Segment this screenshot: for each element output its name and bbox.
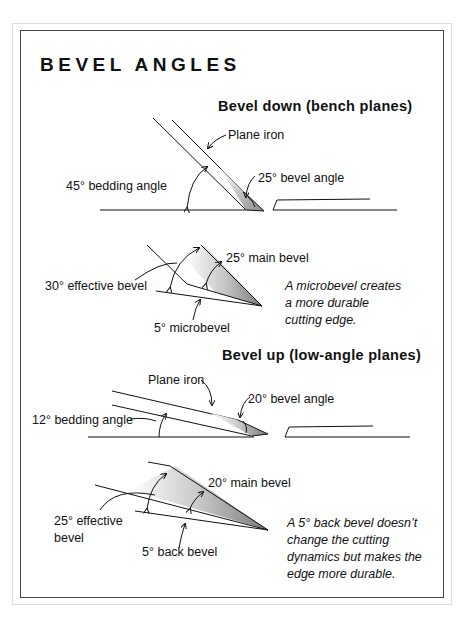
bevel-down-main-diagram bbox=[100, 118, 397, 211]
bevel-up-detail-diagram bbox=[95, 462, 268, 548]
bevel-diagrams bbox=[0, 0, 463, 623]
bevel-down-detail-diagram bbox=[135, 245, 262, 320]
bevel-up-main-diagram bbox=[88, 380, 410, 437]
